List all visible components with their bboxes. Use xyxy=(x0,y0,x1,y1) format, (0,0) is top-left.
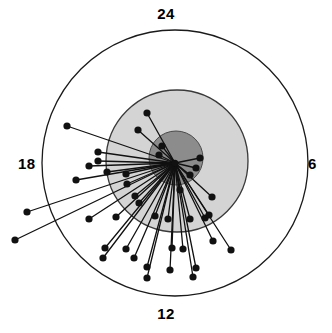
data-point-marker xyxy=(135,199,142,206)
data-point-marker xyxy=(155,151,162,158)
data-point-marker xyxy=(176,186,183,193)
data-point-marker xyxy=(112,213,119,220)
data-point-marker xyxy=(186,171,193,178)
data-point-marker xyxy=(179,245,186,252)
data-point-marker xyxy=(208,193,215,200)
data-point-marker xyxy=(143,274,150,281)
data-point-marker xyxy=(209,237,216,244)
data-point-marker xyxy=(143,109,150,116)
axis-tick-label-18: 18 xyxy=(18,156,35,171)
data-point-marker xyxy=(196,154,203,161)
data-point-marker xyxy=(85,162,92,169)
chart-origin-hub xyxy=(172,160,178,166)
data-point-marker xyxy=(11,236,18,243)
data-point-marker xyxy=(85,215,92,222)
data-point-marker xyxy=(151,212,158,219)
data-point-marker xyxy=(168,244,175,251)
data-point-marker xyxy=(122,245,129,252)
axis-tick-label-24: 24 xyxy=(0,6,332,21)
data-point-marker xyxy=(192,164,199,171)
data-point-marker xyxy=(186,215,193,222)
data-point-marker xyxy=(123,180,130,187)
data-point-marker xyxy=(103,168,110,175)
data-point-marker xyxy=(99,254,106,261)
data-point-marker xyxy=(23,208,30,215)
data-point-marker xyxy=(101,244,108,251)
axis-tick-label-12: 12 xyxy=(0,306,332,321)
data-point-marker xyxy=(134,126,141,133)
data-point-marker xyxy=(130,254,137,261)
data-point-marker xyxy=(205,211,212,218)
data-point-marker xyxy=(63,122,70,129)
data-point-marker xyxy=(227,246,234,253)
data-point-marker xyxy=(166,266,173,273)
axis-tick-label-6: 6 xyxy=(308,156,317,171)
data-point-marker xyxy=(164,215,171,222)
data-point-marker xyxy=(122,170,129,177)
data-point-marker xyxy=(94,148,101,155)
data-point-marker xyxy=(192,264,199,271)
data-point-marker xyxy=(131,192,138,199)
data-point-marker xyxy=(158,142,165,149)
data-point-marker xyxy=(72,176,79,183)
polar-clock-chart: 24 6 12 18 xyxy=(0,0,332,333)
data-point-marker xyxy=(94,157,101,164)
data-point-marker xyxy=(189,273,196,280)
chart-canvas xyxy=(0,0,332,333)
data-point-marker xyxy=(143,263,150,270)
